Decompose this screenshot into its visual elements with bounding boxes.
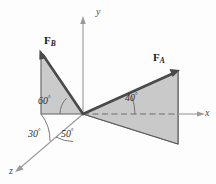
force-a-symbol: F bbox=[153, 51, 160, 63]
x-axis-arrowhead bbox=[197, 111, 205, 116]
z-axis-line bbox=[20, 114, 83, 168]
angle-40-label: 40° bbox=[125, 92, 138, 103]
y-axis-arrowhead bbox=[80, 16, 86, 24]
angle-30-arc bbox=[41, 114, 50, 141]
vector-diagram-figure: y x z FB FA 60° 30° 50° 40° bbox=[0, 0, 216, 184]
angle-30-degree: ° bbox=[38, 127, 41, 134]
y-axis-label: y bbox=[96, 7, 100, 17]
force-b-symbol: F bbox=[44, 34, 51, 46]
angle-50-degree: ° bbox=[71, 127, 74, 134]
angle-50-label: 50° bbox=[61, 128, 74, 139]
force-b-subscript: B bbox=[51, 39, 56, 48]
angle-60-label: 60° bbox=[38, 95, 51, 106]
x-axis-label: x bbox=[205, 108, 209, 118]
angle-40-degree: ° bbox=[135, 91, 138, 98]
force-a-subscript: A bbox=[160, 56, 165, 65]
z-axis-label: z bbox=[9, 166, 13, 176]
diagram-canvas bbox=[0, 0, 216, 184]
angle-30-label: 30° bbox=[28, 128, 41, 139]
force-a-label: FA bbox=[153, 52, 165, 63]
angle-50-value: 50 bbox=[61, 128, 71, 139]
angle-60-degree: ° bbox=[48, 94, 51, 101]
angle-40-value: 40 bbox=[125, 92, 135, 103]
force-b-label: FB bbox=[44, 35, 56, 46]
angle-60-value: 60 bbox=[38, 95, 48, 106]
angle-30-value: 30 bbox=[28, 128, 38, 139]
force-b-arrowhead bbox=[39, 50, 46, 60]
